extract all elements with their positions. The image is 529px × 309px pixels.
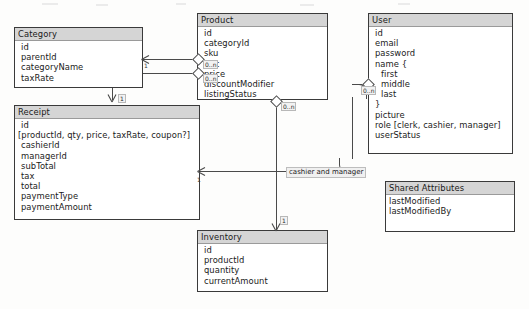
cardinality-category-one: 1 (144, 62, 148, 69)
field: paymentAmount (18, 202, 196, 212)
relation-label-cashier-and-manager: cashier and manager (286, 167, 366, 178)
entity-category-fields: id parentId categoryName taxRate (15, 41, 142, 85)
field: id (18, 42, 139, 52)
scan-artifact (398, 3, 410, 5)
cardinality-product-inventory-many: 0..n (281, 102, 296, 111)
entity-receipt-title: Receipt (15, 106, 199, 119)
field: first (372, 69, 509, 79)
field: categoryId (201, 38, 324, 48)
entity-product[interactable]: Product id categoryId sku upc price disc… (197, 13, 328, 100)
scan-artifact (96, 4, 108, 6)
entity-shared-attributes[interactable]: Shared Attributes lastModified lastModif… (385, 181, 515, 232)
field: categoryName (18, 62, 139, 72)
field: lastModifiedBy (389, 206, 511, 216)
field: role [clerk, cashier, manager] (372, 120, 509, 130)
entity-user-title: User (369, 14, 512, 27)
entity-receipt[interactable]: Receipt id [productId, qty, price, taxRa… (14, 105, 200, 220)
arrowhead-into-receipt-right (196, 166, 206, 176)
entity-shared-attributes-title: Shared Attributes (386, 182, 514, 195)
entity-inventory-fields: id productId quantity currentAmount (198, 244, 327, 288)
field: parentId (18, 52, 139, 62)
field: subTotal (18, 161, 196, 171)
connector-product-inventory (276, 100, 277, 230)
field: currentAmount (201, 276, 324, 286)
field: [productId, qty, price, taxRate, coupon?… (18, 130, 196, 140)
entity-category[interactable]: Category id parentId categoryName taxRat… (14, 27, 143, 88)
cardinality-product-receipt-many: 0..n (203, 74, 218, 83)
field: id (201, 28, 324, 38)
cardinality-inventory-one: 1 (280, 216, 288, 225)
diagram-canvas: 1 0..n 0..n 1 0..n 0..n 1 1 cashier and … (0, 0, 529, 309)
field: last (372, 89, 509, 99)
cardinality-receipt-right-one: 1 (197, 176, 201, 183)
field: listingStatus (201, 89, 324, 99)
field: discountModifier (201, 79, 324, 89)
scan-artifact (176, 3, 186, 5)
entity-receipt-fields: id [productId, qty, price, taxRate, coup… (15, 119, 199, 214)
field: productId (201, 255, 324, 265)
field: id (372, 28, 509, 38)
cardinality-product-category-many: 0..n (203, 60, 218, 69)
field: taxRate (18, 73, 139, 83)
field: paymentType (18, 191, 196, 201)
field: managerId (18, 151, 196, 161)
entity-user-fields: id email password name { first middle la… (369, 27, 512, 142)
scan-artifact (300, 4, 314, 6)
entity-inventory[interactable]: Inventory id productId quantity currentA… (197, 230, 328, 292)
field: cashierId (18, 140, 196, 150)
field: lastModified (389, 196, 511, 206)
entity-inventory-title: Inventory (198, 231, 327, 244)
field: middle (372, 79, 509, 89)
field: id (18, 120, 196, 130)
field: } (372, 99, 509, 109)
field: email (372, 38, 509, 48)
connector-user-receipt-drop (352, 97, 353, 159)
field: picture (372, 110, 509, 120)
cardinality-receipt-top-one: 1 (118, 94, 126, 103)
field: price (201, 69, 324, 79)
field: userStatus (372, 130, 509, 140)
entity-shared-attributes-fields: lastModified lastModifiedBy (386, 195, 514, 218)
entity-user[interactable]: User id email password name { first midd… (368, 13, 513, 154)
entity-category-title: Category (15, 28, 142, 41)
field: name { (372, 59, 509, 69)
scan-artifact (42, 3, 58, 5)
entity-product-title: Product (198, 14, 327, 27)
arrowhead-into-receipt-top (107, 93, 117, 103)
field: id (201, 245, 324, 255)
field: total (18, 181, 196, 191)
field: password (372, 48, 509, 58)
field: upc (201, 59, 324, 69)
field: tax (18, 171, 196, 181)
field: sku (201, 48, 324, 58)
cardinality-user-receipt-many: 0..n (361, 86, 376, 95)
field: quantity (201, 265, 324, 275)
